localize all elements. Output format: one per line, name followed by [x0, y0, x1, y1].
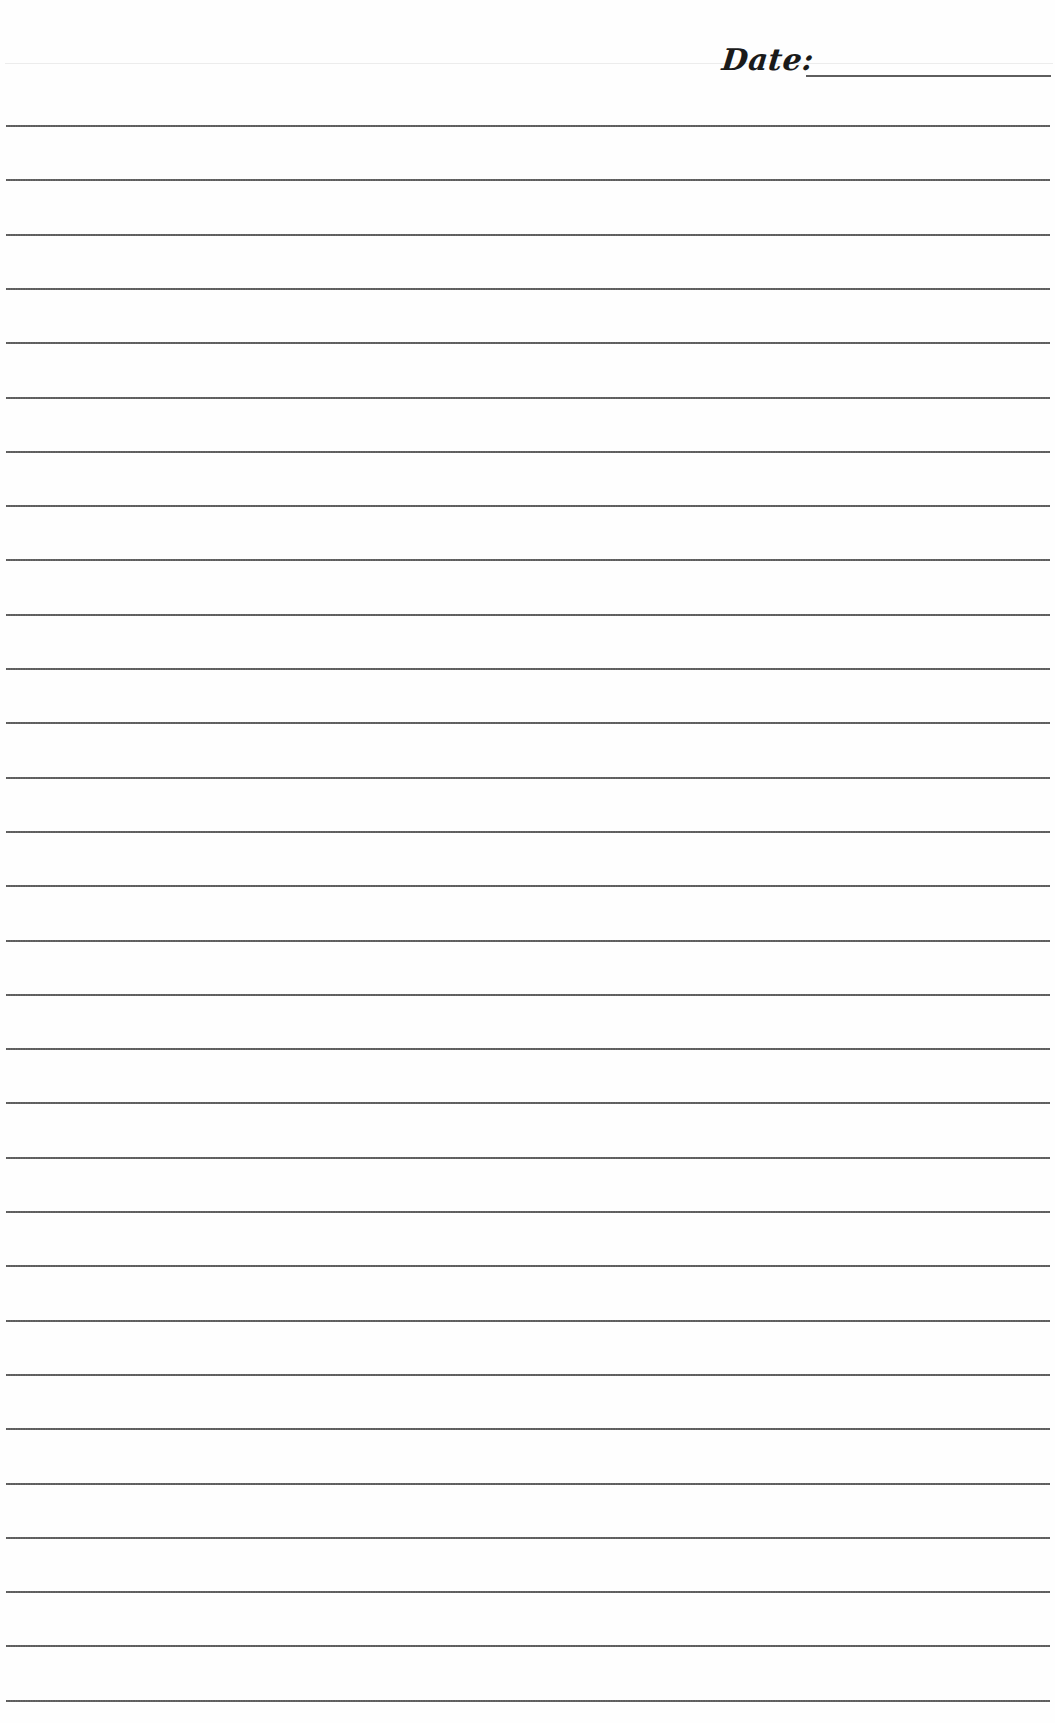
writing-line[interactable]	[6, 451, 1050, 453]
writing-line[interactable]	[6, 831, 1050, 833]
writing-line[interactable]	[6, 722, 1050, 724]
writing-line[interactable]	[6, 1265, 1050, 1267]
writing-line[interactable]	[6, 614, 1050, 616]
writing-line[interactable]	[6, 1102, 1050, 1104]
writing-line[interactable]	[6, 505, 1050, 507]
writing-line[interactable]	[6, 994, 1050, 996]
writing-line[interactable]	[6, 940, 1050, 942]
writing-line[interactable]	[6, 1428, 1050, 1430]
ruled-lines	[0, 0, 1055, 1723]
writing-line[interactable]	[6, 125, 1050, 127]
writing-line[interactable]	[6, 1483, 1050, 1485]
writing-line[interactable]	[6, 1591, 1050, 1593]
writing-line[interactable]	[6, 885, 1050, 887]
writing-line[interactable]	[6, 1374, 1050, 1376]
writing-line[interactable]	[6, 559, 1050, 561]
writing-line[interactable]	[6, 179, 1050, 181]
writing-line[interactable]	[6, 342, 1050, 344]
writing-line[interactable]	[6, 1048, 1050, 1050]
writing-line[interactable]	[6, 397, 1050, 399]
lined-paper-page: Date:	[0, 0, 1055, 1723]
writing-line[interactable]	[6, 234, 1050, 236]
writing-line[interactable]	[6, 1700, 1050, 1702]
writing-line[interactable]	[6, 668, 1050, 670]
writing-line[interactable]	[6, 1537, 1050, 1539]
writing-line[interactable]	[6, 1320, 1050, 1322]
writing-line[interactable]	[6, 1211, 1050, 1213]
writing-line[interactable]	[6, 288, 1050, 290]
writing-line[interactable]	[6, 1157, 1050, 1159]
writing-line[interactable]	[6, 1645, 1050, 1647]
writing-line[interactable]	[6, 777, 1050, 779]
